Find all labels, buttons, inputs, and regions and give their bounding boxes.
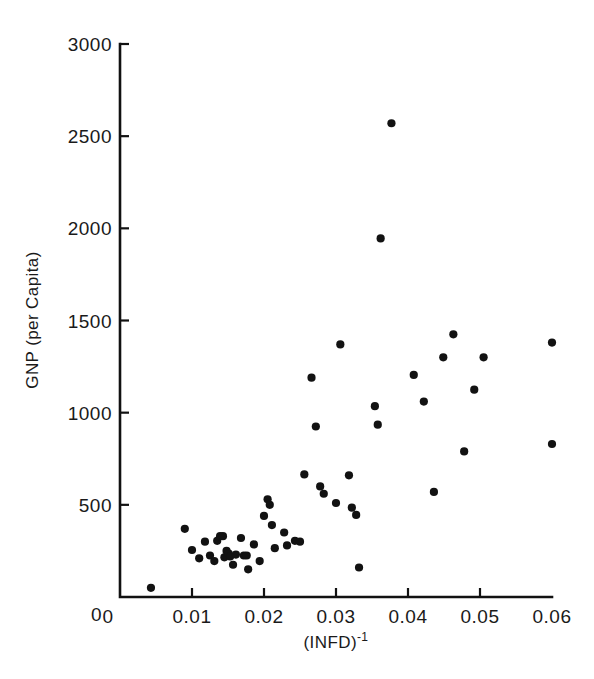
data-point (307, 374, 315, 382)
data-point (460, 447, 468, 455)
data-point (147, 584, 155, 592)
data-point (439, 353, 447, 361)
x-tick-label-0.01: 0.01 (173, 606, 212, 627)
data-point (250, 540, 258, 548)
data-point (377, 234, 385, 242)
x-tick-label-0: 0 (102, 606, 113, 627)
data-point (266, 501, 274, 509)
axis-lines (120, 44, 552, 597)
data-point (181, 525, 189, 533)
data-points (147, 119, 556, 592)
data-point (316, 482, 324, 490)
axis-group (120, 44, 552, 597)
data-point (430, 488, 438, 496)
data-point (271, 544, 279, 552)
data-point (229, 561, 237, 569)
y-axis-tick-labels: 050010001500200025003000 (68, 34, 112, 625)
data-point (420, 398, 428, 406)
x-tick-label-0.02: 0.02 (245, 606, 284, 627)
data-point (232, 551, 240, 559)
data-point (210, 557, 218, 565)
data-point (548, 339, 556, 347)
data-point (296, 538, 304, 546)
data-point (336, 340, 344, 348)
data-point (244, 565, 252, 573)
x-tick-label-0.03: 0.03 (317, 606, 356, 627)
data-point (480, 353, 488, 361)
data-point (320, 490, 328, 498)
x-tick-label-0.05: 0.05 (461, 606, 500, 627)
data-point (195, 554, 203, 562)
data-point (300, 470, 308, 478)
data-point (283, 541, 291, 549)
x-axis-ticks (192, 588, 480, 597)
data-point (268, 521, 276, 529)
data-point (332, 499, 340, 507)
x-axis-tick-labels: 00.010.020.030.040.050.06 (102, 606, 571, 627)
x-axis-label-text: (INFD)-1 (304, 630, 369, 652)
data-point (256, 557, 264, 565)
scatter-plot-figure: 050010001500200025003000 00.010.020.030.… (0, 0, 594, 679)
y-tick-label-1500: 1500 (68, 311, 112, 332)
x-axis-label-exponent: -1 (357, 630, 368, 644)
y-tick-label-1000: 1000 (68, 403, 112, 424)
y-axis-label-text: GNP (per Capita) (23, 251, 42, 388)
x-axis-label-base: (INFD) (304, 633, 357, 652)
data-point (410, 371, 418, 379)
data-point (371, 402, 379, 410)
data-point (355, 563, 363, 571)
data-point (374, 421, 382, 429)
y-tick-label-3000: 3000 (68, 34, 112, 55)
data-point (449, 330, 457, 338)
x-tick-label-0.04: 0.04 (389, 606, 428, 627)
data-point (237, 534, 245, 542)
y-axis-label: GNP (per Capita) (23, 251, 42, 388)
y-tick-label-500: 500 (79, 495, 112, 516)
data-point (260, 512, 268, 520)
x-axis-label: (INFD)-1 (304, 630, 369, 652)
data-point (201, 538, 209, 546)
data-point (280, 528, 288, 536)
y-tick-label-2000: 2000 (68, 218, 112, 239)
data-point (243, 551, 251, 559)
y-tick-label-0: 0 (91, 604, 102, 625)
data-point (548, 440, 556, 448)
data-point (387, 119, 395, 127)
x-tick-label-0.06: 0.06 (533, 606, 572, 627)
plot-canvas: 050010001500200025003000 00.010.020.030.… (0, 0, 594, 679)
data-point (219, 532, 227, 540)
data-point (345, 471, 353, 479)
data-point (312, 422, 320, 430)
data-point (352, 511, 360, 519)
data-point (348, 504, 356, 512)
y-tick-label-2500: 2500 (68, 126, 112, 147)
y-axis-ticks (120, 44, 129, 505)
data-point (470, 386, 478, 394)
data-point (188, 546, 196, 554)
